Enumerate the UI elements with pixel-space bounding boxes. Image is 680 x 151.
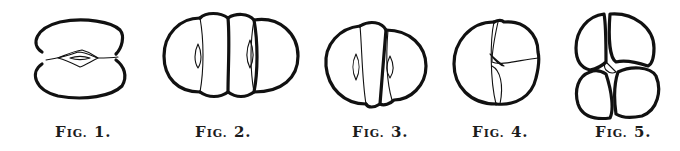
figure-3: FIG. 3. <box>310 0 440 151</box>
figure-4-label: FIG. 4. <box>472 123 529 141</box>
four-cell-row-illustration <box>150 0 310 120</box>
figure-5-label: FIG. 5. <box>595 123 652 141</box>
four-cell-quadrant-illustration <box>560 0 680 120</box>
two-cell-illustration <box>0 0 150 120</box>
four-cell-oblique-illustration <box>310 0 440 120</box>
figure-2-label: FIG. 2. <box>195 123 252 141</box>
figure-1: FIG. 1. <box>0 0 150 151</box>
figure-2: FIG. 2. <box>150 0 310 151</box>
figure-5: FIG. 5. <box>560 0 680 151</box>
figure-1-label: FIG. 1. <box>55 123 112 141</box>
figure-4: FIG. 4. <box>440 0 560 151</box>
three-cell-illustration <box>440 0 560 120</box>
figure-3-label: FIG. 3. <box>352 123 409 141</box>
